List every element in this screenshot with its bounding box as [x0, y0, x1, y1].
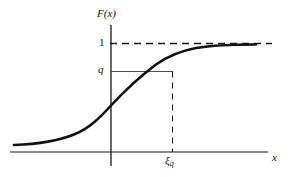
- tick-label-xi-q: ξq: [165, 155, 174, 168]
- cdf-curve: [14, 45, 256, 146]
- xi-subscript: q: [170, 159, 174, 168]
- cdf-quantile-figure: F(x) 1 q ξq x: [0, 0, 297, 177]
- tick-label-q: q: [98, 64, 104, 75]
- x-axis-title: x: [272, 152, 277, 163]
- y-axis-title: F(x): [97, 8, 116, 19]
- plot-canvas: [0, 0, 297, 177]
- tick-label-one: 1: [99, 37, 105, 48]
